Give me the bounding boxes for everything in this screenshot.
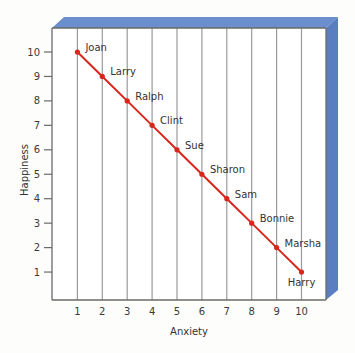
frame-top-band [52, 17, 338, 28]
point-label-marsha: Marsha [285, 238, 322, 249]
data-point-larry [100, 74, 105, 79]
point-label-ralph: Ralph [135, 91, 163, 102]
data-point-sharon [199, 172, 204, 177]
data-point-marsha [274, 245, 279, 250]
y-tick-label-3: 3 [34, 218, 40, 229]
data-point-sam [224, 196, 229, 201]
x-tick-label-7: 7 [224, 306, 230, 317]
point-label-joan: Joan [84, 42, 107, 53]
y-tick-label-10: 10 [27, 47, 40, 58]
x-tick-label-6: 6 [199, 306, 205, 317]
x-tick-label-3: 3 [124, 306, 130, 317]
y-tick-label-2: 2 [34, 242, 40, 253]
y-ticks: 12345678910 [27, 47, 52, 278]
data-point-sue [174, 147, 179, 152]
x-ticks: 12345678910 [74, 306, 308, 317]
point-label-larry: Larry [110, 66, 136, 77]
y-tick-label-8: 8 [34, 95, 40, 106]
y-axis-title: Happiness [19, 144, 30, 196]
x-tick-label-8: 8 [249, 306, 255, 317]
x-tick-label-1: 1 [74, 306, 80, 317]
x-tick-label-5: 5 [174, 306, 180, 317]
x-tick-label-9: 9 [273, 306, 279, 317]
y-tick-label-1: 1 [34, 267, 40, 278]
point-label-sharon: Sharon [210, 164, 245, 175]
point-label-harry: Harry [288, 277, 316, 288]
data-point-joan [75, 49, 80, 54]
point-label-sue: Sue [185, 140, 204, 151]
data-point-clint [150, 123, 155, 128]
point-label-clint: Clint [160, 115, 183, 126]
x-tick-label-2: 2 [99, 306, 105, 317]
chart: 12345678910 12345678910 JoanLarryRalphCl… [0, 0, 355, 353]
point-label-bonnie: Bonnie [260, 213, 295, 224]
point-label-sam: Sam [235, 189, 257, 200]
y-tick-label-7: 7 [34, 120, 40, 131]
y-tick-label-5: 5 [34, 169, 40, 180]
y-tick-label-6: 6 [34, 144, 40, 155]
y-tick-label-9: 9 [34, 71, 40, 82]
x-tick-label-10: 10 [295, 306, 308, 317]
data-point-harry [299, 269, 304, 274]
x-tick-label-4: 4 [149, 306, 155, 317]
data-point-ralph [125, 98, 130, 103]
data-point-bonnie [249, 221, 254, 226]
frame-right-band [326, 17, 338, 300]
y-tick-label-4: 4 [34, 193, 40, 204]
x-axis-title: Anxiety [170, 326, 208, 337]
